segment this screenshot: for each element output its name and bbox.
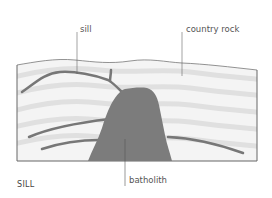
country-rock-label: country rock bbox=[186, 25, 239, 34]
batholith-label: batholith bbox=[129, 176, 167, 185]
sill-label: sill bbox=[80, 25, 92, 34]
diagram-title: SILL bbox=[17, 181, 35, 189]
